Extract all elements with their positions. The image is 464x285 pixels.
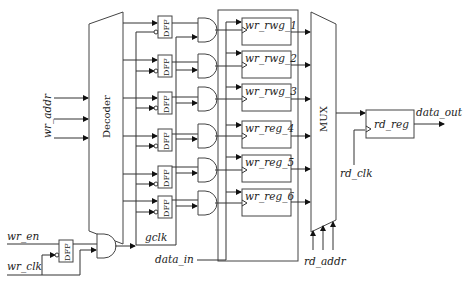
wr-addr-inputs: wr_addr bbox=[41, 93, 88, 138]
dff-3-label: DFF bbox=[162, 95, 171, 113]
rd-clk-label: rd_clk bbox=[340, 167, 373, 180]
and-gate-wr-en bbox=[97, 234, 116, 258]
decoder-label: Decoder bbox=[101, 95, 112, 138]
data-in-label: data_in bbox=[155, 253, 194, 266]
rd-addr-label: rd_addr bbox=[304, 255, 347, 268]
register-wr-reg-4: wr_reg_4 bbox=[242, 121, 294, 148]
decoder-block: Decoder bbox=[89, 12, 123, 244]
mux-label: MUX bbox=[318, 105, 329, 132]
register-3-label: wr_rwg_3 bbox=[245, 85, 297, 98]
and-gate-2 bbox=[198, 54, 217, 78]
dff-2-label: DFF bbox=[162, 58, 171, 76]
data-out-label: data_out bbox=[416, 106, 463, 119]
dff-wr-en-label: DFF bbox=[63, 243, 72, 261]
register-6-label: wr_reg_6 bbox=[245, 190, 294, 203]
register-wr-reg-5: wr_reg_5 bbox=[242, 155, 294, 182]
register-4-label: wr_reg_4 bbox=[245, 122, 294, 135]
wr-clk-label: wr_clk bbox=[7, 260, 42, 273]
register-1-label: wr_rwg_1 bbox=[245, 19, 297, 32]
write-row-3: DFF bbox=[123, 87, 242, 114]
register-2-label: wr_rwg_2 bbox=[245, 52, 297, 65]
register-wr-rwg-2: wr_rwg_2 bbox=[242, 51, 297, 78]
diagram-canvas: wr_addr Decoder gclk DFF DFF bbox=[0, 0, 464, 285]
write-row-1: DFF bbox=[123, 16, 242, 42]
register-wr-rwg-1: wr_rwg_1 bbox=[242, 18, 297, 45]
write-row-5: DFF bbox=[123, 158, 242, 188]
and-gate-3 bbox=[198, 87, 217, 111]
data-in-input: data_in bbox=[155, 253, 226, 266]
gclk-label: gclk bbox=[145, 231, 167, 243]
and-gate-6 bbox=[198, 191, 217, 215]
and-gate-4 bbox=[198, 124, 217, 148]
dff-1-label: DFF bbox=[162, 19, 171, 37]
write-row-4: DFF bbox=[123, 124, 242, 151]
dff-4-label: DFF bbox=[162, 132, 171, 150]
register-5-label: wr_reg_5 bbox=[245, 156, 294, 169]
write-row-2: DFF bbox=[123, 54, 242, 78]
and-gate-1 bbox=[198, 18, 217, 42]
wr-addr-label: wr_addr bbox=[41, 93, 54, 138]
write-row-6: DFF bbox=[123, 191, 242, 218]
dff-6-label: DFF bbox=[162, 199, 171, 217]
rd-reg-block: rd_reg bbox=[366, 110, 414, 138]
register-wr-rwg-3: wr_rwg_3 bbox=[242, 84, 297, 111]
mux-block: MUX bbox=[311, 12, 336, 232]
register-wr-reg-6: wr_reg_6 bbox=[242, 189, 294, 216]
and-gate-5 bbox=[198, 158, 217, 182]
rd-addr-inputs: rd_addr bbox=[304, 222, 347, 268]
wr-en-label: wr_en bbox=[7, 230, 39, 243]
rd-reg-label: rd_reg bbox=[374, 118, 409, 131]
dff-5-label: DFF bbox=[162, 169, 171, 187]
